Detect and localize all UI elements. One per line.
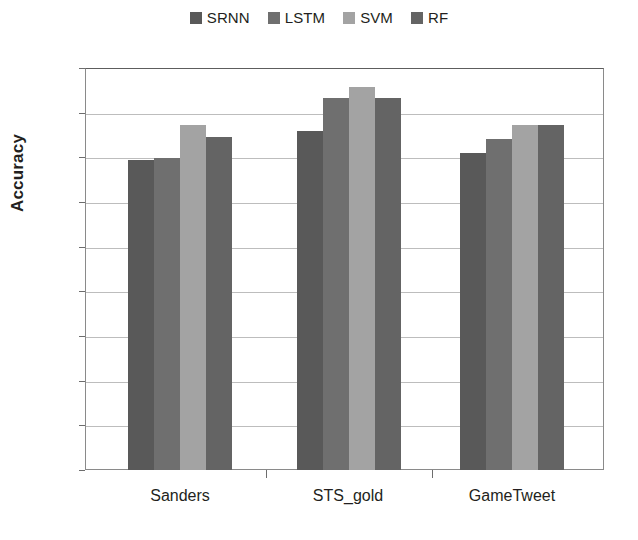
legend-item-srnn: SRNN (190, 10, 250, 25)
bar-lstm-sts_gold (323, 98, 349, 470)
bar-svm-gametweet (512, 125, 538, 470)
bar-svm-sanders (180, 125, 206, 470)
chart-legend: SRNN LSTM SVM RF (0, 10, 638, 25)
legend-swatch-srnn (190, 12, 202, 24)
bars-layer (85, 68, 604, 470)
bar-lstm-gametweet (486, 139, 512, 470)
bar-svm-sts_gold (349, 87, 375, 470)
legend-swatch-rf (411, 12, 423, 24)
x-category-label-gametweet: GameTweet (422, 487, 602, 505)
y-tick-mark (79, 470, 85, 471)
legend-label-srnn: SRNN (207, 10, 250, 25)
bar-lstm-sanders (154, 158, 180, 470)
legend-swatch-lstm (268, 12, 280, 24)
legend-label-svm: SVM (360, 10, 393, 25)
bar-srnn-sts_gold (297, 131, 323, 470)
legend-label-lstm: LSTM (285, 10, 325, 25)
bar-rf-sanders (206, 137, 232, 470)
legend-label-rf: RF (428, 10, 448, 25)
legend-swatch-svm (343, 12, 355, 24)
legend-item-svm: SVM (343, 10, 393, 25)
bar-rf-sts_gold (375, 98, 401, 470)
legend-item-lstm: LSTM (268, 10, 325, 25)
bar-rf-gametweet (538, 125, 564, 470)
x-tick-mark (432, 470, 433, 478)
x-category-label-sanders: Sanders (90, 487, 270, 505)
bar-srnn-gametweet (460, 153, 486, 470)
x-tick-mark (266, 470, 267, 478)
bar-srnn-sanders (128, 160, 154, 470)
legend-item-rf: RF (411, 10, 448, 25)
x-category-label-sts_gold: STS_gold (258, 487, 438, 505)
y-axis-title: Accuracy (8, 103, 28, 243)
